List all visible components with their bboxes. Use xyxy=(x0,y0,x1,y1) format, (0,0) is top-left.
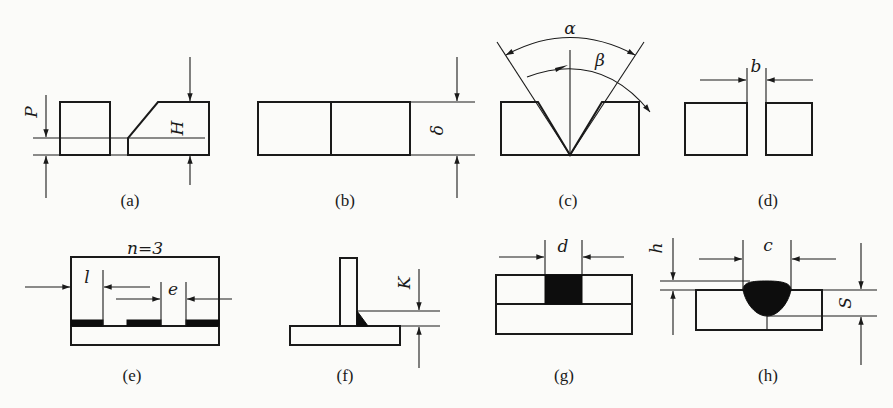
caption-e: (e) xyxy=(123,366,142,385)
caption-g: (g) xyxy=(554,366,574,385)
groove-edge-right xyxy=(570,42,644,155)
caption-h: (h) xyxy=(758,366,778,385)
panel-f: K (f) xyxy=(290,258,440,385)
weld-bead xyxy=(743,281,791,316)
panel-h: h c S (h) xyxy=(646,235,877,385)
panel-e: n=3 l e (e) xyxy=(25,238,232,385)
weld-segment-3 xyxy=(186,320,219,326)
weld-segment-1 xyxy=(71,320,103,326)
left-plate xyxy=(685,103,747,155)
symbol-delta: δ xyxy=(427,125,447,135)
plug-weld xyxy=(545,275,582,304)
symbol-k: K xyxy=(394,275,414,290)
panel-a: P H (a) xyxy=(21,57,209,210)
panel-b: δ (b) xyxy=(258,57,475,210)
right-plate xyxy=(331,102,410,155)
symbol-h-height: H xyxy=(167,119,187,136)
symbol-s: S xyxy=(835,297,855,309)
symbol-n: n=3 xyxy=(127,238,163,258)
caption-f: (f) xyxy=(337,366,354,385)
caption-d: (d) xyxy=(758,191,778,210)
symbol-l: l xyxy=(84,267,89,287)
symbol-c: c xyxy=(763,235,773,255)
weld-dimension-figure: P H (a) δ (b) α β (c) b xyxy=(0,0,893,408)
symbol-b-gap: b xyxy=(751,56,762,76)
left-plate xyxy=(60,102,110,155)
symbol-beta: β xyxy=(594,50,605,70)
fillet-weld xyxy=(357,311,368,326)
caption-a: (a) xyxy=(121,191,140,210)
right-plate xyxy=(766,103,812,155)
caption-b: (b) xyxy=(335,191,355,210)
groove-edge-left xyxy=(497,42,570,155)
beta-arc xyxy=(527,69,650,112)
weld-segment-2 xyxy=(127,320,161,326)
symbol-h-reinforcement: h xyxy=(646,243,666,254)
caption-c: (c) xyxy=(559,191,578,210)
symbol-p: P xyxy=(21,106,41,119)
panel-c: α β (c) xyxy=(497,18,650,210)
base-plate xyxy=(290,326,400,345)
outer-plate xyxy=(71,257,219,345)
panel-g: d (g) xyxy=(496,236,632,385)
left-plate xyxy=(258,102,331,155)
panel-d: b (d) xyxy=(685,56,813,210)
symbol-e: e xyxy=(168,279,178,299)
symbol-d: d xyxy=(558,236,569,256)
symbol-alpha: α xyxy=(564,18,576,38)
vertical-plate xyxy=(340,258,357,326)
